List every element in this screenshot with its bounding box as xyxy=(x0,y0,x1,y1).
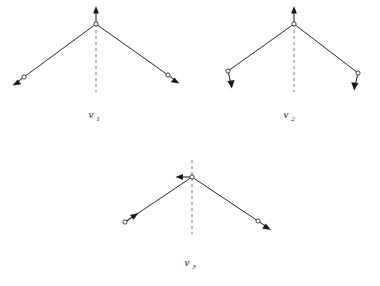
atom-right-nu1 xyxy=(166,73,170,77)
mode-diagram-nu1: v 1 xyxy=(13,6,180,123)
atom-left-nu3 xyxy=(123,220,127,224)
mode-label-subscript-nu2: 2 xyxy=(291,115,295,123)
bond-right-nu3 xyxy=(192,177,258,221)
mode-label-nu1: v xyxy=(89,108,94,120)
atom-apex-nu3 xyxy=(190,175,194,179)
atom-apex-nu2 xyxy=(292,22,296,26)
atom-apex-nu1 xyxy=(94,22,98,26)
bond-right-nu2 xyxy=(294,24,358,73)
bond-left-nu2 xyxy=(228,24,294,71)
vibrational-modes-figure: v 1 v 2 xyxy=(0,0,380,286)
mode-label-nu2: v xyxy=(284,108,289,120)
bond-right-nu1 xyxy=(96,24,168,75)
arrow-head-apex-nu3 xyxy=(176,174,184,180)
bond-left-nu1 xyxy=(24,24,96,77)
atom-right-nu3 xyxy=(256,219,260,223)
arrow-head-right-nu2 xyxy=(351,82,358,90)
atom-left-nu2 xyxy=(226,69,230,73)
arrow-head-apex-nu1 xyxy=(93,6,99,14)
atom-right-nu2 xyxy=(356,71,360,75)
arrow-head-left-nu2 xyxy=(227,80,234,89)
mode-label-subscript-nu3: 3 xyxy=(191,263,196,271)
mode-label-nu3: v xyxy=(185,256,190,268)
mode-label-subscript-nu1: 1 xyxy=(96,115,100,123)
atom-left-nu1 xyxy=(22,75,26,79)
arrow-head-left-nu3 xyxy=(130,213,139,220)
mode-diagram-nu3: v 3 xyxy=(123,160,271,271)
mode-diagram-nu2: v 2 xyxy=(226,6,360,123)
arrow-head-apex-nu2 xyxy=(291,6,297,14)
